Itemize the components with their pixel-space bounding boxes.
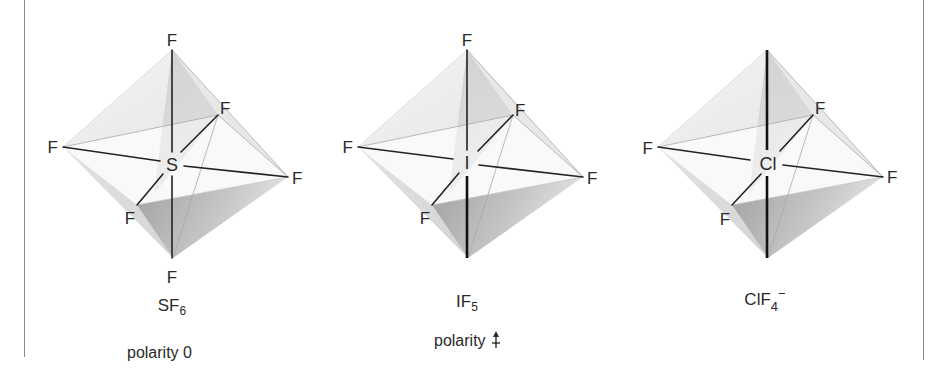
sf6-polarity: polarity 0 (127, 344, 192, 362)
formula-subscript: 6 (180, 304, 187, 318)
polarity-label: polarity (434, 332, 486, 349)
octahedral-molecules-diagram: S F F F F F F I F F F F F (0, 0, 943, 379)
ligand-label: F (125, 209, 135, 228)
ligand-label: F (220, 99, 230, 118)
polarity-label: polarity (127, 344, 179, 361)
ligand-label: F (167, 31, 177, 50)
sf6-formula: SF6 (122, 296, 222, 318)
sf6-octahedron: S F F F F F F (48, 31, 303, 287)
ligand-label: F (420, 209, 430, 228)
ligand-label: F (720, 210, 730, 229)
if5-octahedron: I F F F F F (343, 31, 598, 258)
central-atom-label: I (464, 153, 469, 173)
ligand-label: F (515, 101, 525, 120)
ligand-label: F (587, 169, 597, 188)
formula-base: IF (456, 292, 471, 311)
formula-subscript: 5 (471, 300, 478, 314)
ligand-label: F (462, 31, 472, 50)
clf4-octahedron: Cl F F F F (643, 50, 898, 258)
if5-polarity: polarity (434, 331, 502, 350)
if5-formula: IF5 (417, 292, 517, 314)
ligand-label: F (815, 99, 825, 118)
polarity-value: 0 (183, 344, 192, 361)
ligand-label: F (643, 139, 653, 158)
formula-charge: − (778, 286, 786, 301)
ligand-label: F (167, 268, 177, 287)
clf4-formula: ClF4− (715, 286, 815, 310)
ligand-label: F (48, 138, 58, 157)
formula-base: ClF (744, 290, 770, 309)
ligand-label: F (292, 169, 302, 188)
ligand-label: F (343, 138, 353, 157)
central-atom-label: S (166, 155, 178, 175)
central-atom-label: Cl (760, 154, 777, 174)
dipole-arrow-icon (490, 331, 502, 349)
formula-base: SF (158, 296, 180, 315)
formula-subscript: 4 (771, 299, 778, 314)
ligand-label: F (887, 168, 897, 187)
